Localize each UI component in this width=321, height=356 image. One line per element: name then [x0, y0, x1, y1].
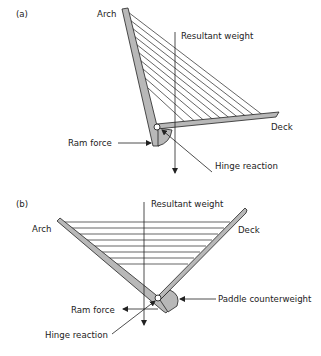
panel-a-hinge-reaction-arrow	[162, 130, 212, 172]
panel-a: (a) Arch Resultant weight Deck Ram force…	[16, 8, 293, 173]
panel-b: (b) Resultant weight Arch Deck Paddle co…	[16, 199, 312, 340]
panel-b-resultant-weight-label: Resultant weight	[151, 199, 224, 209]
panel-b-paddle-counterweight-label: Paddle counterweight	[218, 294, 312, 304]
panel-b-deck-label: Deck	[238, 225, 260, 235]
panel-a-tag: (a)	[16, 9, 28, 19]
panel-b-arch-member	[57, 218, 171, 313]
panel-a-hinge-reaction-label: Hinge reaction	[215, 161, 278, 171]
panel-a-arch-label: Arch	[97, 9, 116, 19]
panel-b-tag: (b)	[16, 199, 28, 209]
bridge-diagram: (a) Arch Resultant weight Deck Ram force…	[0, 0, 321, 356]
panel-b-hinge-icon	[155, 295, 161, 301]
panel-a-resultant-weight-label: Resultant weight	[181, 31, 254, 41]
panel-a-deck-label: Deck	[271, 122, 293, 132]
panel-b-hinge-reaction-label: Hinge reaction	[45, 330, 108, 340]
panel-a-hinge-icon	[154, 124, 160, 130]
panel-b-ram-force-label: Ram force	[71, 305, 115, 315]
panel-a-ram-force-label: Ram force	[68, 138, 112, 148]
panel-b-hinge-reaction-arrow	[112, 301, 155, 334]
panel-b-arch-label: Arch	[32, 224, 51, 234]
